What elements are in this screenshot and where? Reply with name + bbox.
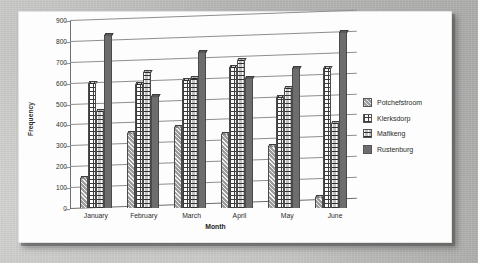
legend-item-rustenburg: Rustenburg	[363, 145, 455, 154]
legend-swatch-mafikeng	[363, 129, 372, 138]
axis-tick-mark	[65, 21, 70, 22]
x-axis-tick-label: June	[311, 212, 359, 219]
bar-rustenburg-march	[198, 52, 206, 208]
bar-group-january	[72, 20, 119, 208]
legend-swatch-potchefstroom	[363, 98, 372, 107]
legend-label: Klerksdorp	[377, 115, 410, 122]
bar-potchefstroom-february	[127, 133, 135, 208]
x-axis-tick-label: May	[263, 212, 311, 219]
y-axis-tick-label: 700	[41, 58, 67, 65]
x-axis-title: Month	[72, 223, 359, 230]
bar-klerksdorp-june	[323, 68, 331, 208]
bar-mafikeng-march	[190, 78, 198, 208]
plot-area: Frequency 9008007006005004003002001000 J…	[19, 12, 451, 242]
legend-swatch-rustenburg	[363, 145, 372, 154]
bar-group-april	[214, 20, 261, 208]
bar-klerksdorp-april	[229, 67, 237, 208]
bar-potchefstroom-march	[174, 127, 182, 208]
y-axis-tick-label: 900	[41, 17, 67, 24]
x-axis-tick-labels: JanuaryFebruaryMarchAprilMayJune	[72, 212, 359, 219]
y-axis-title: Frequency	[27, 84, 34, 154]
legend-label: Mafikeng	[377, 130, 405, 137]
legend-label: Potchefstroom	[377, 99, 422, 106]
bar-potchefstroom-may	[268, 146, 276, 208]
y-axis-tick-labels: 9008007006005004003002001000	[41, 12, 67, 242]
bar-group-february	[119, 20, 166, 208]
bar-mafikeng-january	[96, 111, 104, 208]
axis-tick-mark	[65, 42, 70, 43]
legend-swatch-klerksdorp	[363, 114, 372, 123]
chart-panel: Frequency 9008007006005004003002001000 J…	[18, 11, 452, 243]
bar-rustenburg-may	[292, 68, 300, 208]
y-axis-tick-label: 500	[41, 100, 67, 107]
axis-tick-mark	[65, 209, 70, 210]
legend-label: Rustenburg	[377, 146, 413, 153]
bar-group-may	[261, 20, 308, 208]
bar-mafikeng-june	[331, 123, 339, 208]
bar-klerksdorp-may	[276, 97, 284, 208]
bar-group-june	[308, 20, 355, 208]
bar-rustenburg-april	[245, 78, 253, 208]
y-axis-tick-label: 100	[41, 184, 67, 191]
legend-item-mafikeng: Mafikeng	[363, 129, 455, 138]
bar-potchefstroom-april	[221, 134, 229, 208]
axis-tick-mark	[65, 105, 70, 106]
bar-potchefstroom-june	[315, 197, 323, 208]
y-axis-tick-label: 800	[41, 37, 67, 44]
bar-mafikeng-february	[143, 72, 151, 208]
y-axis-tick-label: 400	[41, 121, 67, 128]
axis-tick-mark	[65, 84, 70, 85]
bar-potchefstroom-january	[80, 178, 88, 208]
x-axis-tick-label: January	[72, 212, 120, 219]
x-axis-tick-label: March	[168, 212, 216, 219]
bar-rustenburg-january	[104, 35, 112, 208]
y-axis-tick-label: 300	[41, 142, 67, 149]
bar-klerksdorp-february	[135, 84, 143, 208]
y-axis-tick-label: 600	[41, 79, 67, 86]
chart-legend: PotchefstroomKlerksdorpMafikengRustenbur…	[363, 98, 455, 160]
bars-container	[72, 20, 355, 208]
x-axis-tick-label: February	[120, 212, 168, 219]
bar-mafikeng-april	[237, 60, 245, 208]
y-axis-tick-label: 200	[41, 163, 67, 170]
bar-rustenburg-february	[151, 96, 159, 208]
bar-mafikeng-may	[284, 88, 292, 208]
bar-klerksdorp-january	[88, 83, 96, 208]
axis-tick-mark	[65, 63, 70, 64]
bar-group-march	[166, 20, 213, 208]
legend-item-potchefstroom: Potchefstroom	[363, 98, 455, 107]
x-axis-tick-label: April	[215, 212, 263, 219]
bar-rustenburg-june	[339, 32, 347, 209]
legend-item-klerksdorp: Klerksdorp	[363, 114, 455, 123]
bar-klerksdorp-march	[182, 80, 190, 208]
y-axis-line	[70, 20, 71, 208]
y-axis-tick-label: 0	[41, 205, 67, 212]
